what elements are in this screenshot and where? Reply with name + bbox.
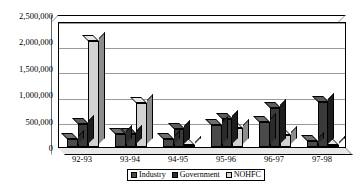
bar-side-face: [195, 136, 201, 144]
chart-container: 0500,0001,000,0001,500,0002,000,0002,500…: [0, 0, 363, 185]
chart-back-wall-top: [51, 15, 346, 22]
legend-item-industry: Industry: [131, 171, 166, 179]
y-axis-label: 500,000: [0, 118, 53, 127]
bar-side-face: [291, 126, 297, 144]
legend-label-nohfc: NOHFC: [234, 171, 261, 179]
gridline: [59, 23, 345, 24]
bar-nohfc-94-95: [184, 145, 195, 147]
bar-front-face: [328, 145, 339, 147]
x-axis-label-93-94: 93-94: [106, 154, 154, 164]
y-axis-label: 1,000,000: [0, 91, 53, 100]
y-axis-label: 1,500,000: [0, 65, 53, 74]
legend-item-nohfc: NOHFC: [226, 171, 261, 179]
bar-side-face: [270, 113, 276, 144]
y-axis-label: 2,500,000: [0, 12, 53, 21]
bar-front-face: [307, 141, 318, 147]
x-axis-label-95-96: 95-96: [202, 154, 250, 164]
bar-industry-92-93: [67, 139, 78, 147]
plot-area: [58, 22, 346, 148]
legend-item-government: Government: [172, 171, 220, 179]
bar-front-face: [115, 134, 126, 147]
legend-label-industry: Industry: [139, 171, 166, 179]
x-axis-label-96-97: 96-97: [250, 154, 298, 164]
x-axis-label-92-93: 92-93: [58, 154, 106, 164]
bar-industry-95-96: [211, 125, 222, 147]
legend-label-government: Government: [180, 171, 220, 179]
chart-legend: Industry Government NOHFC: [127, 169, 265, 181]
legend-swatch-industry: [131, 172, 137, 178]
bar-front-face: [259, 122, 270, 147]
legend-swatch-government: [172, 172, 178, 178]
x-axis-label-94-95: 94-95: [154, 154, 202, 164]
bar-side-face: [99, 32, 105, 144]
bar-industry-93-94: [115, 134, 126, 147]
bar-side-face: [328, 93, 334, 144]
bar-industry-97-98: [307, 141, 318, 147]
x-axis-label-97-98: 97-98: [298, 154, 346, 164]
bar-side-face: [280, 99, 286, 144]
bar-front-face: [163, 139, 174, 147]
bar-side-face: [243, 119, 249, 144]
legend-swatch-nohfc: [226, 172, 232, 178]
bar-nohfc-97-98: [328, 145, 339, 147]
y-axis-label: 2,000,000: [0, 38, 53, 47]
bar-side-face: [339, 136, 345, 144]
bar-front-face: [211, 125, 222, 147]
bar-front-face: [67, 139, 78, 147]
bar-front-face: [184, 145, 195, 147]
bar-side-face: [147, 94, 153, 144]
bar-industry-94-95: [163, 139, 174, 147]
bar-industry-96-97: [259, 122, 270, 147]
y-axis-label: 0: [0, 144, 53, 153]
chart-axis-edge: [51, 15, 52, 148]
